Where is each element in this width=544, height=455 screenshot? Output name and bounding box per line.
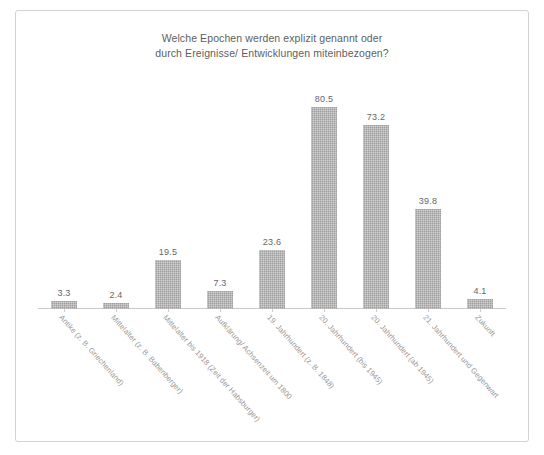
x-axis-label: Zukunft [473, 313, 497, 338]
category-label-slot: 19. Jahrhundert (z. B. 1848) [246, 311, 298, 431]
category-label-slot: Aufklärung/ Achsenzeit um 1800 [194, 311, 246, 431]
chart-title: Welche Epochen werden explizit genannt o… [16, 31, 528, 61]
bar-value-label: 19.5 [159, 247, 177, 257]
bar-value-label: 4.1 [473, 286, 486, 296]
bar-slot: 19.5 [142, 83, 194, 309]
chart-title-line-2: durch Ereignisse/ Entwicklungen miteinbe… [16, 46, 528, 61]
x-axis-category-labels: Antike (z. B. Griechenland)Mittelalter (… [38, 311, 506, 431]
bar[interactable] [415, 209, 441, 309]
bar-value-label: 2.4 [109, 290, 122, 300]
bar-value-label: 80.5 [315, 94, 333, 104]
category-label-slot: Mittelalter (z. B. Babenberger) [90, 311, 142, 431]
bar-value-label: 73.2 [367, 112, 385, 122]
category-label-slot: 21. Jahrhundert und Gegenwart [402, 311, 454, 431]
category-label-slot: 20. Jahrhundert (bis 1945) [298, 311, 350, 431]
bar[interactable] [311, 107, 337, 309]
plot-area: 3.32.419.57.323.680.573.239.84.1 [38, 83, 506, 309]
bar-value-label: 39.8 [419, 196, 437, 206]
bar[interactable] [467, 299, 493, 309]
bar[interactable] [155, 260, 181, 309]
bar-slot: 73.2 [350, 83, 402, 309]
bar-slot: 2.4 [90, 83, 142, 309]
bar-slot: 23.6 [246, 83, 298, 309]
bar-value-label: 3.3 [57, 288, 70, 298]
bar-value-label: 23.6 [263, 237, 281, 247]
bar-slot: 4.1 [454, 83, 506, 309]
chart-container: Welche Epochen werden explizit genannt o… [15, 10, 529, 442]
chart-title-line-1: Welche Epochen werden explizit genannt o… [16, 31, 528, 46]
bar-value-label: 7.3 [213, 278, 226, 288]
bar[interactable] [259, 250, 285, 309]
category-label-slot: Zukunft [454, 311, 506, 431]
bar[interactable] [207, 291, 233, 309]
bar-slot: 39.8 [402, 83, 454, 309]
category-label-slot: Mittelalter bis 1918 (Zeit der Habsburge… [142, 311, 194, 431]
category-label-slot: 20. Jahrhundert (ab 1945) [350, 311, 402, 431]
bar-slot: 7.3 [194, 83, 246, 309]
bar-slot: 3.3 [38, 83, 90, 309]
category-label-slot: Antike (z. B. Griechenland) [38, 311, 90, 431]
bar-slot: 80.5 [298, 83, 350, 309]
bar[interactable] [51, 301, 77, 309]
bar[interactable] [363, 125, 389, 309]
